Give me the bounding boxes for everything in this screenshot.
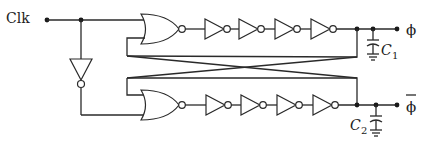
top-nor-gate-icon <box>141 14 179 44</box>
bottom-nor-gate-icon <box>141 90 179 120</box>
input-inverter-icon <box>70 59 92 80</box>
c1-subscript: 1 <box>392 50 398 61</box>
top-inverter-4-bubble <box>330 26 337 33</box>
bottom-inverter-2-bubble <box>260 102 267 109</box>
bottom-inverter-1-icon <box>206 95 225 115</box>
top-inverter-2-bubble <box>258 26 265 33</box>
phi-output-node <box>395 27 400 32</box>
top-inverter-3-icon <box>275 19 294 39</box>
top-inverter-3-bubble <box>294 26 301 33</box>
top-inverter-4-icon <box>311 19 330 39</box>
top-nor-bubble <box>179 26 186 33</box>
input-inverter-bubble <box>78 81 85 88</box>
bottom-inverter-4-icon <box>313 95 332 115</box>
clock-generator-circuit: Clk ϕ C 1 <box>0 0 436 145</box>
bottom-inverter-2-icon <box>241 95 260 115</box>
phi-bar-label: ϕ <box>406 98 416 116</box>
bottom-inverter-4-bubble <box>332 102 339 109</box>
top-inverter-1-bubble <box>224 26 231 33</box>
bottom-feedback-junction <box>355 103 360 108</box>
bottom-nor-bubble <box>179 102 186 109</box>
phi-label: ϕ <box>406 21 416 39</box>
c2-label: C <box>350 117 361 133</box>
c1-label: C <box>381 42 392 58</box>
bottom-inverter-3-icon <box>277 95 296 115</box>
bottom-inverter-3-bubble <box>296 102 303 109</box>
bottom-inverter-1-bubble <box>225 102 232 109</box>
clk-label: Clk <box>6 10 30 26</box>
top-inverter-2-icon <box>239 19 258 39</box>
c2-subscript: 2 <box>361 125 367 136</box>
phi-bar-output-node <box>395 103 400 108</box>
top-inverter-1-icon <box>205 19 224 39</box>
